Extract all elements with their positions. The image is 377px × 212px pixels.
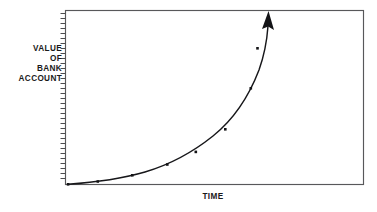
chart-background (0, 0, 377, 212)
x-axis-label: TIME (203, 192, 224, 201)
data-point-marker (224, 128, 227, 131)
data-point-marker (250, 87, 253, 90)
y-axis-label-line-1: VALUE (33, 44, 62, 53)
data-point-marker (97, 180, 100, 183)
y-axis-label-line-3: BANK (37, 64, 62, 73)
chart-canvas: VALUE OF BANK ACCOUNT TIME (0, 0, 377, 212)
data-point-marker (195, 151, 198, 154)
data-point-marker (166, 163, 169, 166)
exponential-growth-chart: VALUE OF BANK ACCOUNT TIME (0, 0, 377, 212)
y-axis-label-line-4: ACCOUNT (19, 74, 62, 83)
y-axis-label-line-2: OF (50, 54, 62, 63)
data-point-marker (67, 183, 70, 186)
data-point-marker (256, 47, 259, 50)
data-point-marker (131, 174, 134, 177)
